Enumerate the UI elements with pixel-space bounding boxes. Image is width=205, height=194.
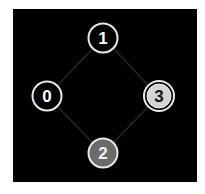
node-1[interactable]: 1 [89,24,118,53]
node-0-label: 0 [42,87,51,106]
node-2[interactable]: 2 [89,139,118,168]
edge-0-1 [57,48,93,86]
edges [57,48,149,143]
edge-1-3 [113,48,149,86]
node-0[interactable]: 0 [33,82,62,111]
node-1-label: 1 [98,29,107,48]
edge-2-0 [57,106,93,143]
node-3-label: 3 [154,87,163,106]
node-3[interactable]: 3 [144,81,174,111]
node-2-label: 2 [98,144,107,163]
graph-diagram: 0 1 2 3 [0,0,205,194]
edge-3-2 [113,106,149,143]
